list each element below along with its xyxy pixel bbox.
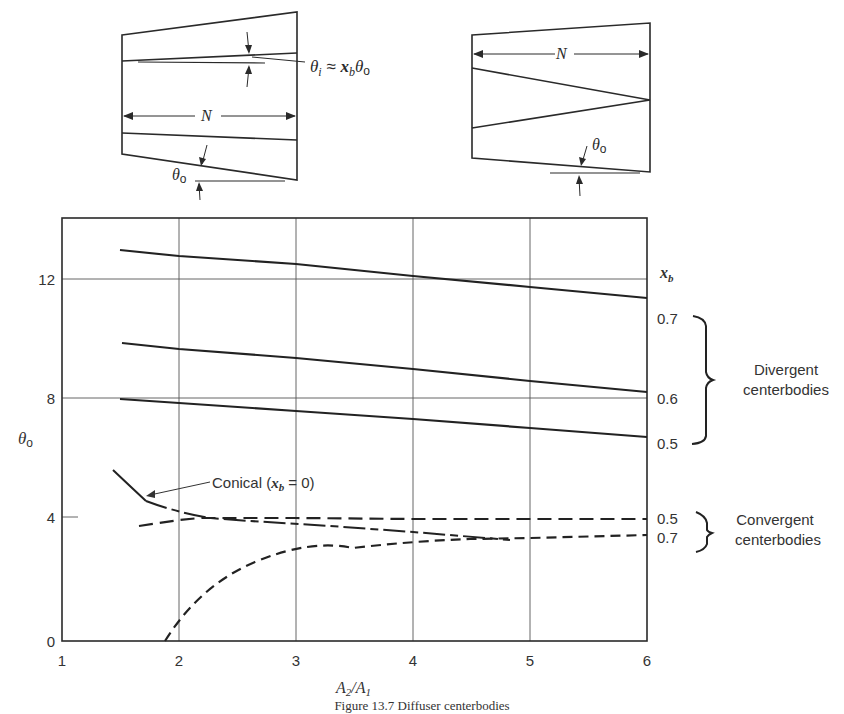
svg-text:Conical (xb = 0): Conical (xb = 0) <box>212 474 315 493</box>
svg-text:5: 5 <box>526 652 534 669</box>
svg-text:0.5: 0.5 <box>657 510 678 527</box>
divergent-labels: 0.7 0.6 0.5 <box>657 310 678 452</box>
svg-text:Convergent: Convergent <box>736 511 814 528</box>
convergent-labels: 0.5 0.7 <box>657 510 678 546</box>
centerbody-lower-edge <box>472 100 650 128</box>
svg-text:centerbodies: centerbodies <box>743 381 829 398</box>
convergent-brace-icon <box>696 512 712 552</box>
theta-o-label-right: θo <box>592 136 607 156</box>
length-label-left: N <box>200 107 213 124</box>
centerbody-upper-edge <box>472 68 650 100</box>
divergent-centerbody-diagram <box>122 12 305 200</box>
series-divergent-0.5 <box>120 399 647 437</box>
svg-text:3: 3 <box>292 652 300 669</box>
x-tick-labels: 1 2 3 4 5 6 <box>58 652 651 669</box>
svg-text:Divergent: Divergent <box>754 361 819 378</box>
svg-text:2: 2 <box>175 652 183 669</box>
svg-text:4: 4 <box>409 652 417 669</box>
right-axis-title: xb <box>659 264 674 284</box>
svg-text:1: 1 <box>58 652 66 669</box>
y-axis-label: θo <box>18 429 33 450</box>
svg-text:6: 6 <box>643 652 651 669</box>
svg-text:0: 0 <box>47 633 55 650</box>
svg-text:0.6: 0.6 <box>657 390 678 407</box>
svg-text:0.5: 0.5 <box>657 435 678 452</box>
x-axis-label: A2/A1 <box>335 679 371 698</box>
svg-text:centerbodies: centerbodies <box>735 531 821 548</box>
convergent-group-label: Convergent centerbodies <box>735 511 821 548</box>
divergent-group-label: Divergent centerbodies <box>743 361 829 398</box>
theta-i-label: θi ≈ xbθo <box>310 57 370 79</box>
svg-text:12: 12 <box>38 271 55 288</box>
svg-text:4: 4 <box>47 509 55 526</box>
y-tick-labels: 12 8 4 0 <box>38 271 55 650</box>
centerbody-lower-edge <box>122 133 297 140</box>
series-convergent-0.7 <box>165 535 647 641</box>
centerbody-upper-edge <box>122 53 297 61</box>
theta-o-label-left: θo <box>172 166 187 186</box>
svg-text:8: 8 <box>47 390 55 407</box>
svg-text:0.7: 0.7 <box>657 529 678 546</box>
reference-line-upper <box>138 62 265 63</box>
svg-text:0.7: 0.7 <box>657 310 678 327</box>
series-divergent-0.6 <box>122 343 647 392</box>
diffuser-outline <box>122 12 297 180</box>
divergent-brace-icon <box>692 316 713 444</box>
divergent-series <box>120 250 647 437</box>
figure-caption: Figure 13.7 Diffuser centerbodies <box>0 698 844 714</box>
conical-annotation: Conical (xb = 0) <box>146 474 315 498</box>
length-label-right: N <box>555 45 568 62</box>
series-divergent-0.7 <box>120 250 647 298</box>
